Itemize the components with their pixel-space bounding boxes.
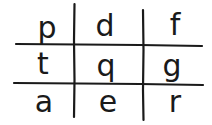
cell-r1-c2: d — [85, 9, 125, 43]
cell-r2-c3: g — [152, 50, 192, 82]
vertical-divider-2 — [143, 10, 144, 120]
cell-r3-c1: a — [24, 87, 64, 117]
vertical-divider-1 — [74, 4, 75, 117]
letter-grid: p d f t q g a e r — [0, 0, 212, 125]
cell-r1-c1: p — [27, 12, 67, 44]
cell-r1-c3: f — [155, 8, 195, 42]
cell-r2-c1: t — [23, 48, 63, 80]
cell-r3-c2: e — [88, 87, 128, 117]
cell-r2-c2: q — [86, 50, 126, 82]
cell-r3-c3: r — [155, 87, 195, 117]
